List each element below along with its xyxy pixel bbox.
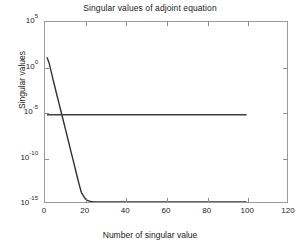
y-tick-label-4: 10-15	[4, 198, 38, 207]
y-tick-mantissa-0: 10	[26, 16, 35, 25]
tick-x-bottom-2	[126, 198, 127, 202]
x-tick-label-4: 80	[192, 206, 222, 215]
tick-x-top-3	[167, 22, 168, 26]
y-tick-mantissa-4: 10	[20, 198, 29, 207]
x-axis-label: Number of singular value	[0, 230, 300, 240]
tick-x-top-5	[248, 22, 249, 26]
tick-y-right-3	[283, 159, 287, 160]
tick-x-top-1	[86, 22, 87, 26]
x-tick-label-6: 120	[273, 206, 300, 215]
tick-x-bottom-4	[208, 198, 209, 202]
tick-y-left-2	[45, 113, 49, 114]
y-tick-exponent-1: 0	[35, 59, 38, 65]
y-tick-exponent-3: -10	[29, 150, 38, 156]
y-tick-exponent-4: -15	[29, 195, 38, 201]
y-tick-label-3: 10-10	[4, 153, 38, 162]
tick-x-bottom-1	[86, 198, 87, 202]
tick-x-top-2	[126, 22, 127, 26]
series-layer	[45, 22, 287, 202]
y-tick-mantissa-3: 10	[20, 153, 29, 162]
figure-canvas: Singular values of adjoint equation 0204…	[0, 0, 300, 252]
x-tick-label-1: 20	[70, 206, 100, 215]
plot-inner	[45, 22, 287, 202]
x-tick-label-5: 100	[232, 206, 262, 215]
x-tick-label-3: 60	[151, 206, 181, 215]
y-tick-exponent-2: -5	[33, 104, 38, 110]
tick-y-right-2	[283, 113, 287, 114]
chart-title: Singular values of adjoint equation	[0, 3, 300, 13]
x-tick-label-0: 0	[29, 206, 59, 215]
series-line-0	[47, 57, 247, 202]
y-tick-mantissa-1: 10	[26, 62, 35, 71]
y-axis-label: Singular values	[17, 20, 27, 140]
tick-y-right-1	[283, 68, 287, 69]
tick-x-bottom-5	[248, 198, 249, 202]
tick-y-left-1	[45, 68, 49, 69]
y-tick-exponent-0: 5	[35, 13, 38, 19]
tick-x-bottom-3	[167, 198, 168, 202]
tick-x-top-4	[208, 22, 209, 26]
tick-y-left-3	[45, 159, 49, 160]
plot-area	[44, 21, 288, 203]
x-tick-label-2: 40	[110, 206, 140, 215]
